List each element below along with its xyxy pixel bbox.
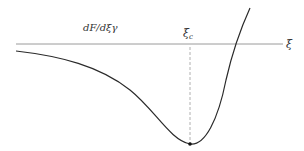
axis-label-xi: ξ (286, 38, 293, 51)
derivative-curve-diagram: dF/dξγ ξc ξ (0, 0, 304, 151)
critical-xi-label: ξc (183, 27, 193, 41)
curve-label: dF/dξγ (83, 22, 118, 33)
critical-xi-subscript: c (189, 33, 193, 41)
minimum-point (188, 142, 192, 146)
derivative-curve (16, 8, 250, 144)
